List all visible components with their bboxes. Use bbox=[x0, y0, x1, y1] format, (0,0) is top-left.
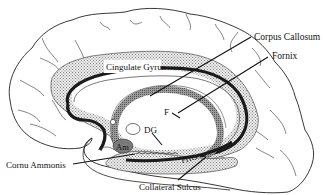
label-collateral-sulcus: Collateral Sulcus bbox=[139, 182, 201, 192]
label-cornu-ammonis: Cornu Ammonis bbox=[6, 160, 66, 170]
anterior-commissure bbox=[110, 119, 115, 124]
label-fornix: Fornix bbox=[272, 51, 298, 61]
brain-diagram: Corpus Callosum Fornix Cingulate Gyrus F… bbox=[0, 0, 324, 195]
label-dg: DG bbox=[144, 125, 157, 135]
mammillary-body bbox=[126, 124, 140, 135]
label-am: Am bbox=[116, 142, 129, 152]
label-cingulate-gyrus: Cingulate Gyrus bbox=[106, 62, 166, 72]
diagram-canvas: Corpus Callosum Fornix Cingulate Gyrus F… bbox=[0, 0, 324, 195]
label-f: F bbox=[164, 107, 169, 117]
label-corpus-callosum: Corpus Callosum bbox=[254, 32, 321, 42]
